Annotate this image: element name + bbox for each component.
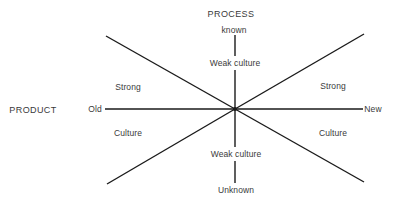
product-old-label: Old — [88, 104, 102, 114]
process-unknown-label: Unknown — [218, 185, 254, 195]
diagonal-bottom-right-line — [235, 109, 364, 182]
process-known-label: known — [221, 25, 246, 35]
process-axis-title: PROCESS — [208, 9, 255, 19]
center-point — [233, 107, 237, 111]
product-axis-title: PRODUCT — [9, 105, 56, 115]
region-left-lower-label: Culture — [114, 128, 142, 138]
region-bottom-label: Weak culture — [211, 149, 262, 159]
diagonal-top-right-line — [235, 34, 364, 109]
diagonal-top-left-line — [106, 36, 235, 109]
region-right-upper-label: Strong — [320, 81, 346, 91]
region-top-label: Weak culture — [210, 58, 261, 68]
region-left-upper-label: Strong — [115, 82, 141, 92]
diagonal-bottom-left-line — [107, 109, 235, 184]
culture-diagram: PROCESS known Weak culture PRODUCT Old N… — [0, 0, 398, 204]
product-new-label: New — [364, 104, 381, 114]
diagram-lines — [0, 0, 398, 204]
region-right-lower-label: Culture — [319, 128, 347, 138]
